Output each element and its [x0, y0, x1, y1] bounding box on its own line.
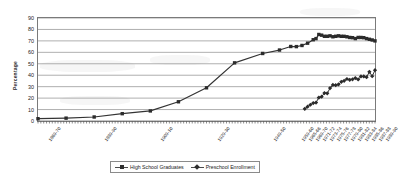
data-point-marker: [295, 45, 298, 48]
data-point-marker: [300, 44, 303, 47]
chart-legend: High School Graduates Preschool Enrollme…: [110, 161, 260, 173]
data-point-marker: [177, 100, 180, 103]
legend-diamond-marker-icon: [191, 164, 204, 170]
data-point-marker: [205, 86, 208, 89]
data-series: [36, 33, 377, 121]
legend-item-preschool-enrollment: Preschool Enrollment: [191, 164, 255, 170]
grid-lines: [38, 18, 375, 121]
data-point-marker: [121, 112, 124, 115]
data-point-marker: [314, 100, 318, 104]
plot-frame: [38, 18, 376, 122]
legend-label-preschool-enrollment: Preschool Enrollment: [206, 164, 255, 170]
data-point-marker: [314, 37, 317, 40]
chart-container: Percentage 0102030405060708090 1869-7018…: [0, 0, 411, 177]
series-line-high-school-graduates: [38, 34, 375, 118]
data-point-marker: [373, 68, 377, 72]
data-point-marker: [261, 52, 264, 55]
data-point-marker: [289, 45, 292, 48]
data-point-marker: [278, 48, 281, 51]
data-point-marker: [64, 116, 67, 119]
data-point-marker: [36, 117, 39, 120]
data-point-marker: [233, 61, 236, 64]
data-point-marker: [306, 41, 309, 44]
data-point-marker: [325, 91, 329, 95]
legend-square-marker-icon: [115, 164, 128, 170]
legend-label-high-school-graduates: High School Graduates: [130, 164, 184, 170]
legend-item-high-school-graduates: High School Graduates: [115, 164, 184, 170]
data-point-marker: [373, 39, 376, 42]
data-point-marker: [149, 109, 152, 112]
data-point-marker: [92, 115, 95, 118]
plot-area: [0, 0, 411, 177]
